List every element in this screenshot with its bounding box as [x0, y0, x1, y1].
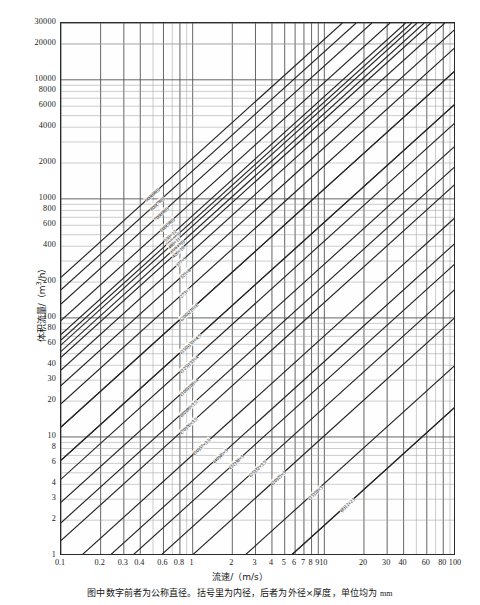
x-tick-label: 0.1 [55, 558, 65, 567]
pipe-curve [61, 122, 455, 479]
x-tick-label: 0.4 [134, 558, 144, 567]
y-tick-label: 20 [47, 396, 56, 404]
pipe-curve [61, 23, 372, 304]
pipe-curve [61, 23, 406, 335]
x-tick-label: 0.8 [174, 558, 184, 567]
y-tick-label: 60 [47, 339, 56, 347]
x-tick-label: 2 [229, 558, 233, 567]
pipe-curve [61, 23, 412, 340]
pipe-curve [160, 288, 455, 555]
y-tick-label: 2 [52, 515, 56, 523]
x-tick-label: 1 [190, 558, 194, 567]
x-tick-label: 10 [319, 558, 327, 567]
pipe-curve [61, 23, 390, 320]
x-tick-label: 60 [422, 558, 430, 567]
pipe-curve [61, 23, 424, 351]
pipe-curve [191, 317, 455, 555]
y-axis-title-exp: 3 [35, 281, 43, 285]
x-axis-title: 流速/（m/s） [0, 570, 480, 583]
x-tick-label: 80 [438, 558, 446, 567]
y-tick-label: 10000 [35, 75, 56, 83]
plot-canvas: 900(880)800(780)700(680)600(580)500(480)… [60, 22, 455, 555]
y-tick-label: 6 [52, 458, 56, 466]
y-tick-label: 20000 [35, 39, 56, 47]
pipe-curve [290, 406, 455, 555]
pipe-curve [61, 23, 342, 277]
pipe-curve [61, 23, 431, 357]
caption-unit: mm [380, 589, 393, 598]
x-tick-label: 40 [399, 558, 407, 567]
y-tick-label: 600 [43, 220, 56, 228]
x-tick-label: 0.3 [118, 558, 128, 567]
y-tick-label: 80 [47, 324, 56, 332]
pipe-curve [81, 217, 455, 555]
y-tick-label: 200 [43, 277, 56, 285]
figure-caption: 图中数字前者为公称直径。括号里为内径，后者为外径×厚度，单位均为 mm [0, 586, 480, 599]
y-tick-label: 30000 [35, 18, 56, 26]
pipe-curve [61, 70, 455, 427]
x-tick-label: 30 [382, 558, 390, 567]
y-tick-label: 2000 [39, 158, 56, 166]
y-tick-label: 4000 [39, 122, 56, 130]
y-tick-label: 800 [43, 205, 56, 213]
y-tick-label: 4 [52, 479, 56, 487]
y-tick-label: 30 [47, 375, 56, 383]
pipe-curve [290, 406, 455, 555]
x-tick-label: 3 [252, 558, 256, 567]
grid-and-curves [61, 23, 455, 555]
y-tick-label: 8 [52, 443, 56, 451]
x-tick-label: 8 [309, 558, 313, 567]
plot-area: 900(880)800(780)700(680)600(580)500(480)… [60, 22, 455, 555]
chart-page: 体积流量/（m3/h） 900(880)800(780)700(680)600(… [0, 0, 480, 605]
x-tick-label: 0.2 [95, 558, 105, 567]
y-tick-label: 400 [43, 241, 56, 249]
x-tick-label: 0.6 [157, 558, 167, 567]
x-tick-label: 7 [301, 558, 305, 567]
pipe-curve [61, 28, 455, 385]
y-tick-label: 3 [52, 494, 56, 502]
y-tick-label: 1000 [39, 194, 56, 202]
x-tick-label: 4 [269, 558, 273, 567]
y-tick-label: 10 [47, 432, 56, 440]
x-tick-label: 20 [359, 558, 367, 567]
y-tick-label: 100 [43, 313, 56, 321]
y-tick-label: 8000 [39, 86, 56, 94]
y-tick-label: 6000 [39, 101, 56, 109]
pipe-curve [109, 242, 455, 555]
x-tick-label: 100 [449, 558, 461, 567]
y-tick-label: 40 [47, 360, 56, 368]
pipe-curve [244, 364, 455, 555]
x-tick-label: 6 [292, 558, 296, 567]
caption-text: 图中数字前者为公称直径。括号里为内径，后者为外径×厚度，单位均为 [87, 588, 380, 598]
x-tick-label: 5 [282, 558, 286, 567]
y-axis-title: 体积流量/（m3/h） [35, 263, 48, 342]
